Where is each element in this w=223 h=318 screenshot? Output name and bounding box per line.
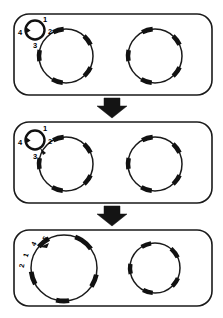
panel-middle-label-2: 2 — [48, 137, 52, 146]
panel-top-label-1: 1 — [43, 15, 47, 24]
panel-middle: 1 2 3 4 — [14, 122, 212, 203]
figure-container: 1 2 3 4 1 — [0, 0, 223, 318]
transition-arrow-1 — [97, 98, 127, 118]
panel-middle-label-3: 3 — [33, 152, 37, 161]
panel-top-label-3: 3 — [33, 41, 37, 50]
panel-top: 1 2 3 4 — [14, 14, 212, 95]
transition-arrow-2 — [97, 206, 127, 226]
panel-top-label-2: 2 — [48, 27, 52, 36]
panel-bottom: 5 4 1 2 — [14, 223, 212, 314]
panel-middle-label-1: 1 — [43, 124, 47, 133]
diagram-canvas: 1 2 3 4 1 — [0, 0, 223, 318]
panel-top-small-vesicle — [26, 21, 45, 40]
